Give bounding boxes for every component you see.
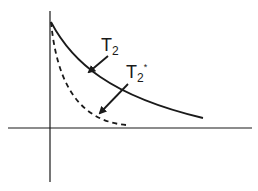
t2-label-main: T (101, 35, 112, 55)
t2-star-arrow (100, 84, 128, 113)
t2-label: T2 (101, 35, 119, 58)
t2-star-decay-curve (51, 22, 126, 125)
t2-star-label-asterisk: * (144, 62, 148, 72)
relaxation-diagram: T2 T2* (0, 0, 258, 191)
t2-label-subscript: 2 (112, 44, 119, 58)
t2-star-label: T2* (126, 62, 148, 85)
t2-star-label-subscript: 2 (137, 71, 144, 85)
t2-star-label-main: T (126, 62, 137, 82)
t2-arrow (89, 56, 108, 72)
